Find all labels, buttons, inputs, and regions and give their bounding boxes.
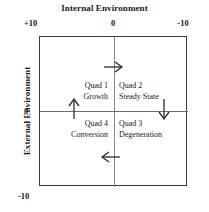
quadrant-4-name: Conversion: [71, 130, 108, 141]
x-axis-tick-negative-ten: -10: [177, 18, 188, 28]
quadrant-1-name: Growth: [84, 92, 108, 103]
quadrant-label-1: Quad 1 Growth: [84, 81, 108, 102]
quadrant-2-id: Quad 2: [119, 81, 159, 92]
left-arrow-icon: [98, 149, 122, 165]
chart-title: Internal Environment: [0, 3, 209, 13]
y-axis-tick-negative-ten: -10: [18, 191, 29, 201]
quadrant-label-4: Quad 4 Conversion: [71, 119, 108, 140]
plot-frame: Quad 1 Growth Quad 2 Steady State Quad 3…: [39, 36, 187, 186]
quadrant-3-name: Degeneration: [119, 130, 162, 141]
right-arrow-icon: [102, 59, 126, 75]
quadrant-2-name: Steady State: [119, 92, 159, 103]
x-axis-tick-positive-ten: +10: [24, 18, 37, 28]
x-axis-tick-zero: 0: [111, 18, 115, 28]
up-arrow-icon: [66, 95, 82, 121]
quadrant-label-2: Quad 2 Steady State: [119, 81, 159, 102]
quadrant-1-id: Quad 1: [84, 81, 108, 92]
y-axis-tick-zero: 0: [24, 106, 28, 116]
down-arrow-icon: [156, 97, 172, 123]
